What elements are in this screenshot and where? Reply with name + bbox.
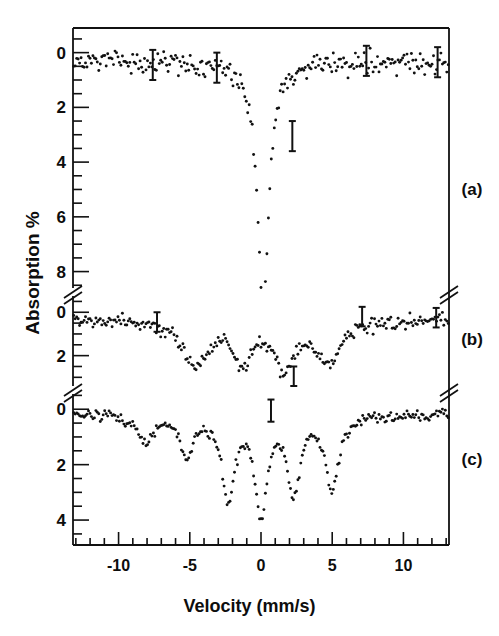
panel-label-c: (c)	[462, 450, 483, 469]
data-points-panel-0	[72, 47, 449, 289]
x-tick-label: 0	[257, 557, 266, 574]
y-tick-label: 2	[57, 98, 66, 117]
y-tick-label: 0	[57, 303, 66, 322]
spectrum-plot-svg: -10-505100246802024(a)(b)(c)	[0, 0, 499, 636]
y-tick-label: 2	[57, 456, 66, 475]
y-tick-label: 0	[57, 44, 66, 63]
data-points-panel-2	[72, 408, 449, 521]
x-axis-label: Velocity (mm/s)	[0, 596, 499, 617]
y-tick-label: 0	[57, 400, 66, 419]
data-points-panel-1	[72, 311, 449, 379]
mossbauer-spectrum-figure: -10-505100246802024(a)(b)(c) Absorption …	[0, 0, 499, 636]
y-tick-label: 2	[57, 347, 66, 366]
x-tick-label: 5	[328, 557, 337, 574]
y-axis-label: Absorption %	[22, 178, 44, 368]
y-tick-label: 6	[57, 208, 66, 227]
y-tick-label: 4	[57, 511, 67, 530]
y-tick-label: 8	[57, 263, 66, 282]
y-tick-label: 4	[57, 153, 67, 172]
x-tick-label: 10	[395, 557, 413, 574]
x-tick-label: -10	[107, 557, 130, 574]
panel-label-a: (a)	[462, 180, 483, 199]
x-tick-label: -5	[183, 557, 197, 574]
panel-label-b: (b)	[461, 330, 483, 349]
